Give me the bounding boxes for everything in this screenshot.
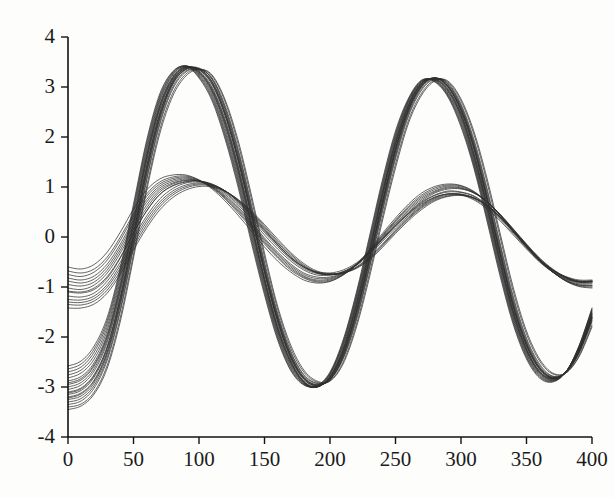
series-line	[68, 66, 592, 387]
y-tick-label: 3	[45, 76, 56, 97]
y-tick-label: -1	[38, 276, 56, 297]
series-line	[68, 66, 592, 387]
series-line	[68, 67, 592, 387]
series-line	[68, 69, 592, 405]
series-line	[68, 66, 592, 387]
x-tick-label: 400	[552, 449, 614, 470]
chart-figure: -4-3-2-101234 050100150200250300350400	[0, 0, 614, 498]
y-tick-label: -4	[38, 426, 56, 447]
y-tick-label: 0	[45, 226, 56, 247]
series-layer	[68, 66, 592, 410]
series-line	[68, 66, 592, 387]
y-tick-label: 2	[45, 126, 56, 147]
y-tick-label: 1	[45, 176, 56, 197]
y-tick-label: -2	[38, 326, 56, 347]
series-line	[68, 181, 592, 292]
series-line	[68, 69, 592, 409]
plot-area	[0, 0, 614, 498]
series-line	[68, 68, 592, 398]
y-tick-label: -3	[38, 376, 56, 397]
series-line	[68, 66, 592, 388]
series-line	[68, 183, 592, 300]
series-line	[68, 66, 592, 387]
series-line	[68, 181, 592, 293]
series-line	[68, 69, 592, 407]
series-line	[68, 66, 592, 387]
y-tick-label: 4	[45, 26, 56, 47]
series-line	[68, 67, 592, 388]
